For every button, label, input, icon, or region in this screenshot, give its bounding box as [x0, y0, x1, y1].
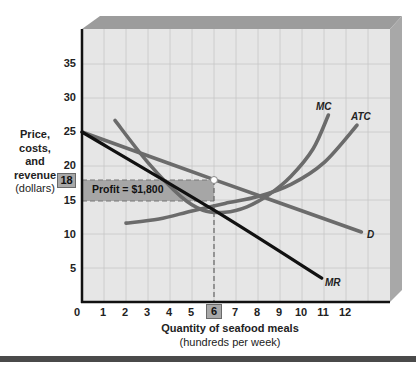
x-tick-6-highlighted: 6 — [206, 304, 222, 319]
bottom-rule — [0, 356, 416, 362]
y-tick-30: 30 — [52, 91, 76, 103]
x-tick-1: 1 — [93, 306, 113, 318]
y-tick-35: 35 — [52, 57, 76, 69]
y-axis-label-units: (dollars) — [15, 182, 55, 194]
x-tick-11: 11 — [313, 306, 333, 318]
x-axis-label-units: (hundreds per week) — [180, 336, 281, 348]
x-axis-label-title: Quantity of seafood meals — [161, 322, 299, 334]
x-tick-5: 5 — [181, 306, 201, 318]
y-axis-label-line-2: costs, — [19, 142, 51, 154]
x-tick-12: 12 — [335, 306, 355, 318]
x-tick-3: 3 — [137, 306, 157, 318]
y-tick-5: 5 — [52, 262, 76, 274]
atc-curve-label: ATC — [351, 111, 371, 122]
profit-label: Profit = $1,800 — [92, 183, 164, 195]
y-tick-15: 15 — [52, 194, 76, 206]
frame-top-bevel — [82, 16, 402, 29]
x-axis-label: Quantity of seafood meals (hundreds per … — [130, 321, 330, 349]
x-tick-2: 2 — [115, 306, 135, 318]
y-tick-10: 10 — [52, 228, 76, 240]
x-tick-8: 8 — [247, 306, 267, 318]
x-tick-10: 10 — [291, 306, 311, 318]
mc-curve-label: MC — [316, 101, 332, 112]
y-axis-label-line-3: and — [25, 155, 45, 167]
demand-curve-label: D — [367, 229, 374, 240]
y-axis-label: Price, costs, and revenue (dollars) — [2, 128, 68, 196]
mr-curve-label: MR — [325, 277, 341, 288]
x-tick-4: 4 — [159, 306, 179, 318]
y-axis-label-line-4: revenue — [14, 169, 56, 181]
frame-right-bevel — [390, 16, 402, 302]
x-tick-0: 0 — [67, 306, 87, 318]
profit-max-point — [211, 177, 218, 184]
x-tick-7: 7 — [225, 306, 245, 318]
x-tick-9: 9 — [269, 306, 289, 318]
y-axis-label-line-1: Price, — [20, 128, 50, 140]
